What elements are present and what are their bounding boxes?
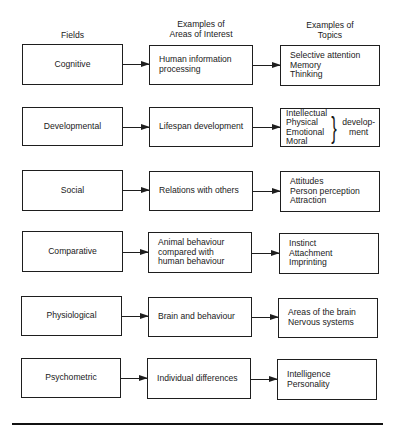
field-label: Developmental — [44, 122, 101, 132]
topic-line: Imprinting — [289, 258, 332, 268]
area-box-comparative: Animal behaviour compared with human beh… — [148, 232, 252, 273]
area-line: Lifespan development — [159, 122, 243, 132]
arrow-icon — [253, 65, 280, 66]
area-box-psychometric: Individual differences — [147, 358, 251, 399]
area-box-developmental: Lifespan development — [149, 107, 253, 147]
topic-line: Thinking — [290, 70, 360, 80]
arrow-icon — [123, 190, 149, 191]
arrow-icon — [122, 252, 148, 253]
arrow-icon — [253, 127, 280, 128]
arrow-icon — [252, 253, 279, 254]
field-label: Cognitive — [55, 60, 91, 70]
topic-line: Moral — [286, 137, 327, 146]
field-label: Psychometric — [45, 373, 97, 383]
header-topics: Examples of Topics — [280, 20, 380, 40]
topic-box-comparative: Instinct Attachment Imprinting — [279, 233, 379, 274]
header-fields-label: Fields — [61, 30, 84, 40]
arrow-icon — [123, 64, 149, 65]
topic-line: Nervous systems — [288, 318, 356, 328]
header-areas-line-2: Areas of Interest — [149, 29, 253, 39]
header-topics-line-2: Topics — [280, 30, 380, 40]
topic-line: Attraction — [290, 196, 360, 206]
area-box-physiological: Brain and behaviour — [148, 297, 252, 337]
field-box-social: Social — [22, 170, 123, 211]
field-box-developmental: Developmental — [22, 107, 123, 146]
field-box-physiological: Physiological — [21, 296, 122, 336]
topic-box-social: Attitudes Person perception Attraction — [280, 171, 380, 212]
area-box-cognitive: Human information processing — [149, 45, 253, 85]
header-areas-line-1: Examples of — [149, 19, 253, 29]
area-box-social: Relations with others — [149, 171, 253, 211]
field-box-psychometric: Psychometric — [21, 358, 121, 398]
area-line: human behaviour — [158, 257, 224, 267]
area-line: Brain and behaviour — [158, 312, 235, 322]
topic-box-developmental: Intellectual Physical Emotional Moral } … — [280, 108, 380, 147]
field-label: Social — [61, 186, 84, 196]
field-label: Comparative — [48, 247, 97, 257]
header-areas: Examples of Areas of Interest — [149, 19, 253, 39]
curly-brace-icon: } — [331, 113, 337, 143]
arrow-icon — [122, 316, 148, 317]
arrow-icon — [251, 379, 277, 380]
field-label: Physiological — [46, 311, 96, 321]
area-line: Individual differences — [157, 374, 238, 384]
suffix-line: ment — [349, 128, 368, 138]
topic-brace-suffix: develop- ment — [342, 118, 375, 137]
arrow-icon — [121, 378, 147, 379]
area-line: Relations with others — [159, 186, 239, 196]
arrow-icon — [253, 191, 280, 192]
topic-box-cognitive: Selective attention Memory Thinking — [280, 45, 380, 86]
topic-box-physiological: Areas of the brain Nervous systems — [278, 298, 378, 338]
area-line: processing — [159, 65, 232, 75]
header-fields: Fields — [22, 30, 123, 40]
bottom-rule-divider — [12, 423, 383, 425]
arrow-icon — [252, 317, 278, 318]
topic-box-psychometric: Intelligence Personality — [277, 359, 377, 400]
arrow-icon — [123, 127, 149, 128]
field-box-cognitive: Cognitive — [22, 44, 123, 85]
header-topics-line-1: Examples of — [280, 20, 380, 30]
field-box-comparative: Comparative — [22, 231, 123, 272]
topic-line: Personality — [287, 380, 330, 390]
